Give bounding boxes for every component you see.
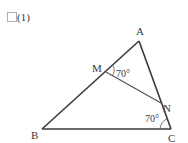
label-m: M (92, 62, 102, 74)
checkbox-icon[interactable] (8, 13, 17, 22)
triangle-diagram: (1) A B C M N 70° 70° (0, 0, 188, 143)
side-ab (42, 41, 139, 129)
label-b: B (31, 129, 38, 141)
angle-value-c: 70° (145, 113, 159, 124)
label-a: A (136, 25, 144, 37)
label-c: C (168, 132, 175, 143)
angle-value-m: 70° (116, 68, 130, 79)
angle-arc-m (112, 66, 114, 76)
label-n: N (163, 102, 171, 114)
angle-arc-c (160, 119, 167, 129)
problem-number: (1) (17, 11, 30, 24)
